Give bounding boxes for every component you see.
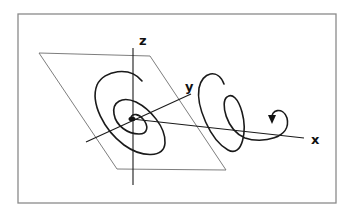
arrowhead-icon xyxy=(268,115,276,124)
frame-border xyxy=(18,14,336,203)
y-axis-label: y xyxy=(185,79,194,94)
origin-point xyxy=(129,117,136,121)
helix-trajectory xyxy=(199,74,288,152)
x-axis-label: x xyxy=(311,132,320,147)
planar-spiral xyxy=(95,72,165,155)
z-axis-label: z xyxy=(139,33,147,48)
spiral-diagram: z y x xyxy=(0,0,351,215)
